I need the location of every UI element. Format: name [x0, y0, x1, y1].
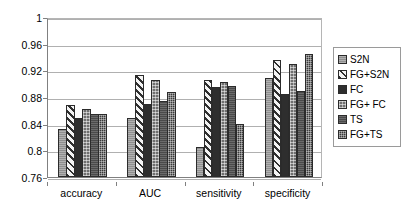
y-tick-label: 0.76	[2, 173, 42, 183]
x-tick-label: accuracy	[47, 187, 116, 199]
legend-swatch-icon	[338, 55, 347, 64]
bar-group	[48, 19, 117, 177]
bar	[305, 54, 314, 177]
legend-item-label: FG+ FC	[350, 100, 386, 110]
legend-swatch-icon	[338, 70, 347, 79]
y-tick-mark	[43, 45, 47, 46]
x-tick-mark	[185, 182, 186, 186]
y-tick-mark	[43, 125, 47, 126]
bar	[236, 124, 245, 177]
x-tick-label: specificity	[253, 187, 322, 199]
legend-item-label: FG+S2N	[350, 70, 389, 80]
legend-swatch-icon	[338, 130, 347, 139]
legend-swatch-icon	[338, 100, 347, 109]
chart-legend: S2NFG+S2NFCFG+ FCTSFG+TS	[333, 47, 401, 147]
bar-group	[254, 19, 323, 177]
y-tick-label: 0.84	[2, 120, 42, 130]
x-tick-mark	[47, 182, 48, 186]
gridline	[48, 179, 321, 180]
y-tick-mark	[43, 98, 47, 99]
bar-chart: 0.760.80.840.880.920.961 accuracyAUCsens…	[0, 0, 405, 211]
x-tick-mark	[116, 182, 117, 186]
legend-item[interactable]: TS	[338, 112, 397, 127]
y-tick-mark	[43, 151, 47, 152]
y-tick-mark	[43, 18, 47, 19]
x-tick-mark	[253, 182, 254, 186]
legend-item[interactable]: FC	[338, 82, 397, 97]
legend-swatch-icon	[338, 115, 347, 124]
legend-item[interactable]: FG+TS	[338, 127, 397, 142]
x-tick-label: AUC	[116, 187, 185, 199]
legend-item[interactable]: FG+ FC	[338, 97, 397, 112]
plot-area	[47, 18, 322, 178]
y-axis: 0.760.80.840.880.920.961	[0, 18, 42, 178]
bars-layer	[48, 19, 321, 177]
x-tick-mark	[322, 182, 323, 186]
y-tick-label: 0.92	[2, 66, 42, 76]
bar-group	[186, 19, 255, 177]
legend-swatch-icon	[338, 85, 347, 94]
legend-item[interactable]: FG+S2N	[338, 67, 397, 82]
y-tick-mark	[43, 178, 47, 179]
y-tick-mark	[43, 71, 47, 72]
y-tick-label: 0.96	[2, 40, 42, 50]
legend-item-label: S2N	[350, 55, 369, 65]
legend-item-label: FC	[350, 85, 363, 95]
y-tick-label: 0.8	[2, 146, 42, 156]
bar	[98, 114, 107, 177]
legend-item-label: TS	[350, 115, 363, 125]
y-tick-label: 0.88	[2, 93, 42, 103]
x-tick-label: sensitivity	[185, 187, 254, 199]
legend-item[interactable]: S2N	[338, 52, 397, 67]
bar	[167, 92, 176, 177]
bar-group	[117, 19, 186, 177]
y-tick-label: 1	[2, 13, 42, 23]
legend-item-label: FG+TS	[350, 130, 383, 140]
x-axis: accuracyAUCsensitivityspecificity	[47, 182, 322, 208]
